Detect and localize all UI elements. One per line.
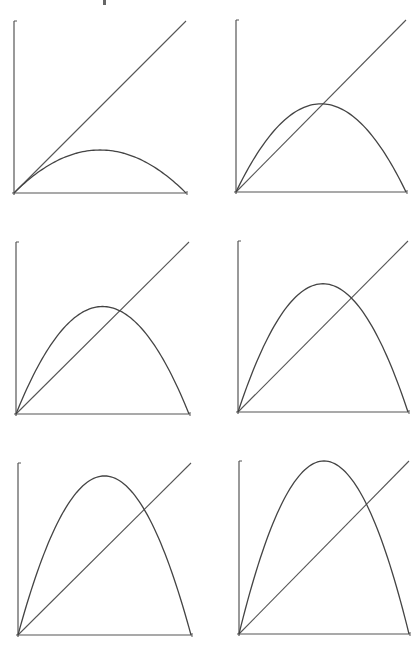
chart-panel-6 — [0, 0, 420, 646]
